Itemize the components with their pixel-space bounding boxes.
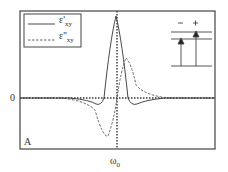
y-tick-zero: 0 xyxy=(10,92,15,103)
panel-label: A xyxy=(24,136,31,147)
plot xyxy=(0,0,228,172)
series-imag xyxy=(20,58,215,136)
legend-imag-label: ε''xy xyxy=(59,30,74,44)
x-label: ω0 xyxy=(110,155,120,169)
chart: ε'xy ε''xy 0 A ω0 xyxy=(0,0,228,172)
legend-real-label: ε'xy xyxy=(59,14,72,28)
energy-diagram xyxy=(171,21,212,67)
